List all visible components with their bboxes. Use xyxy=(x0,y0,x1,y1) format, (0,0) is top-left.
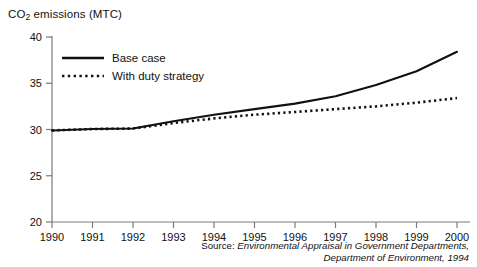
series-line-with-duty-strategy xyxy=(52,98,457,130)
chart-figure: CO2 emissions (MTC) 2025303540 199019911… xyxy=(0,0,477,267)
y-tick-label: 20 xyxy=(30,216,42,228)
x-tick-label: 1990 xyxy=(40,231,64,243)
source-line-1: Source: Environmental Appraisal in Gover… xyxy=(201,240,469,252)
source-line-2: Department of Environment, 1994 xyxy=(201,252,469,264)
x-tick-label: 1992 xyxy=(121,231,145,243)
legend-label-base-case: Base case xyxy=(112,52,166,64)
y-tick-label: 40 xyxy=(30,31,42,43)
plot-area: 2025303540 19901991199219931994199519961… xyxy=(0,0,477,267)
y-tick-group: 2025303540 xyxy=(30,31,52,228)
x-tick-label: 1993 xyxy=(161,231,185,243)
chart-legend: Base case With duty strategy xyxy=(62,52,204,82)
y-tick-label: 35 xyxy=(30,77,42,89)
legend-label-with-duty-strategy: With duty strategy xyxy=(112,70,204,82)
source-prefix: Source: xyxy=(201,240,234,251)
x-tick-label: 1991 xyxy=(80,231,104,243)
y-tick-label: 25 xyxy=(30,170,42,182)
source-text-line-1: Environmental Appraisal in Government De… xyxy=(237,240,469,251)
source-citation: Source: Environmental Appraisal in Gover… xyxy=(201,240,469,263)
y-tick-label: 30 xyxy=(30,124,42,136)
